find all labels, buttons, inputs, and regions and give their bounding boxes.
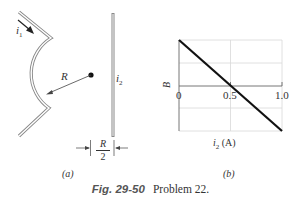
panel-b-label: (b) <box>223 169 235 179</box>
x-tick-0: 0 <box>176 90 182 101</box>
distance-label: R 2 <box>96 139 110 162</box>
radius-label: R <box>61 71 68 82</box>
x-axis-label: i2 (A) <box>213 138 236 151</box>
y-axis-label: B <box>162 82 172 88</box>
x-tick-0-5: 0.5 <box>223 90 237 101</box>
x-tick-1-0: 1.0 <box>275 90 289 101</box>
caption-text: Problem 22. <box>153 183 209 195</box>
wire1-current-label: i1 <box>16 25 23 39</box>
panel-b-chart <box>0 0 301 205</box>
figure-number: Fig. 29-50 <box>92 183 145 195</box>
figure-caption: Fig. 29-50Problem 22. <box>0 183 301 195</box>
wire2-current-label: i2 <box>116 73 123 87</box>
panel-a-label: (a) <box>62 169 74 179</box>
